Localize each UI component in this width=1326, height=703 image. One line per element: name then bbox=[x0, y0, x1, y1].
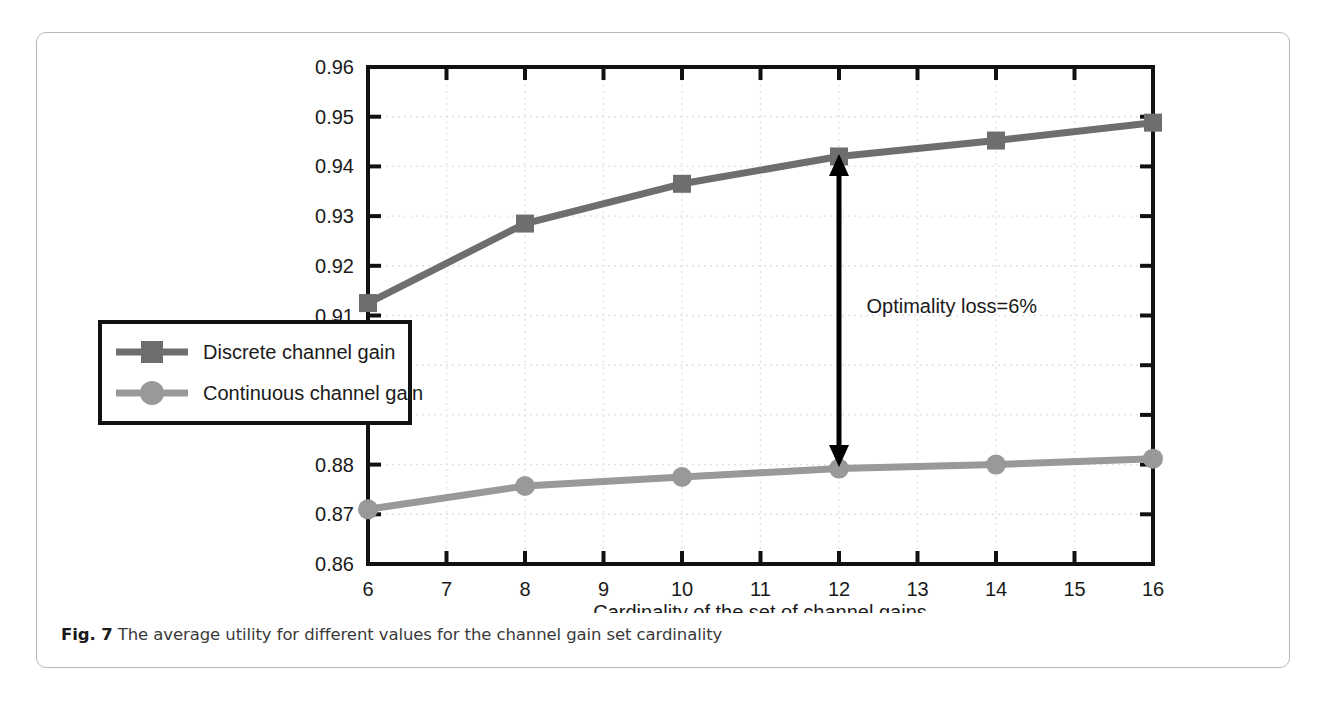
y-tick-label: 0.88 bbox=[315, 454, 354, 476]
x-tick-label: 11 bbox=[750, 578, 771, 600]
y-tick-label: 0.96 bbox=[315, 56, 354, 78]
chart-legend: Discrete channel gainContinuous channel … bbox=[100, 322, 423, 423]
legend-swatch-marker bbox=[141, 341, 163, 363]
chart-svg: 0.860.870.880.890.90.910.920.930.940.950… bbox=[37, 33, 1291, 613]
legend-item-1: Discrete channel gain bbox=[116, 341, 395, 363]
x-tick-label: 9 bbox=[598, 578, 609, 600]
y-axis-tick-labels: 0.860.870.880.890.90.910.920.930.940.950… bbox=[315, 56, 354, 575]
data-point-marker bbox=[359, 294, 377, 312]
data-point-marker bbox=[516, 215, 534, 233]
x-axis-title: Cardinality of the set of channel gains bbox=[593, 601, 927, 613]
x-tick-label: 15 bbox=[1063, 578, 1085, 600]
x-tick-label: 13 bbox=[906, 578, 928, 600]
y-tick-label: 0.92 bbox=[315, 255, 354, 277]
y-tick-label: 0.87 bbox=[315, 503, 354, 525]
data-point-marker bbox=[987, 132, 1005, 150]
data-point-marker bbox=[1144, 114, 1162, 132]
data-point-marker bbox=[672, 467, 692, 487]
data-point-marker bbox=[986, 455, 1006, 475]
figure-caption: Fig. 7 The average utility for different… bbox=[61, 625, 1261, 644]
x-tick-label: 14 bbox=[985, 578, 1007, 600]
data-point-marker bbox=[673, 175, 691, 193]
legend-label: Discrete channel gain bbox=[203, 341, 395, 363]
figure-caption-label: Fig. 7 bbox=[61, 625, 113, 644]
legend-swatch-marker bbox=[140, 381, 164, 405]
x-tick-label: 8 bbox=[519, 578, 530, 600]
annotation-group: Optimality loss=6% bbox=[829, 154, 1037, 467]
x-tick-label: 10 bbox=[671, 578, 693, 600]
x-axis-tick-labels: 678910111213141516 bbox=[362, 578, 1164, 600]
legend-box bbox=[100, 322, 410, 423]
legend-label: Continuous channel gain bbox=[203, 382, 423, 404]
x-tick-label: 6 bbox=[362, 578, 373, 600]
series-line bbox=[368, 459, 1153, 510]
series-2 bbox=[358, 449, 1163, 520]
x-tick-label: 16 bbox=[1142, 578, 1164, 600]
y-tick-label: 0.93 bbox=[315, 205, 354, 227]
x-tick-label: 7 bbox=[441, 578, 452, 600]
y-tick-label: 0.86 bbox=[315, 553, 354, 575]
chart-plot-region: 0.860.870.880.890.90.910.920.930.940.950… bbox=[37, 33, 1291, 613]
x-tick-label: 12 bbox=[828, 578, 850, 600]
data-point-marker bbox=[1143, 449, 1163, 469]
annotation-label: Optimality loss=6% bbox=[866, 295, 1037, 317]
y-tick-label: 0.95 bbox=[315, 106, 354, 128]
data-point-marker bbox=[515, 476, 535, 496]
data-point-marker bbox=[358, 499, 378, 519]
figure-card: 0.860.870.880.890.90.910.920.930.940.950… bbox=[36, 32, 1290, 668]
y-tick-label: 0.94 bbox=[315, 155, 354, 177]
figure-caption-text: The average utility for different values… bbox=[113, 625, 723, 644]
